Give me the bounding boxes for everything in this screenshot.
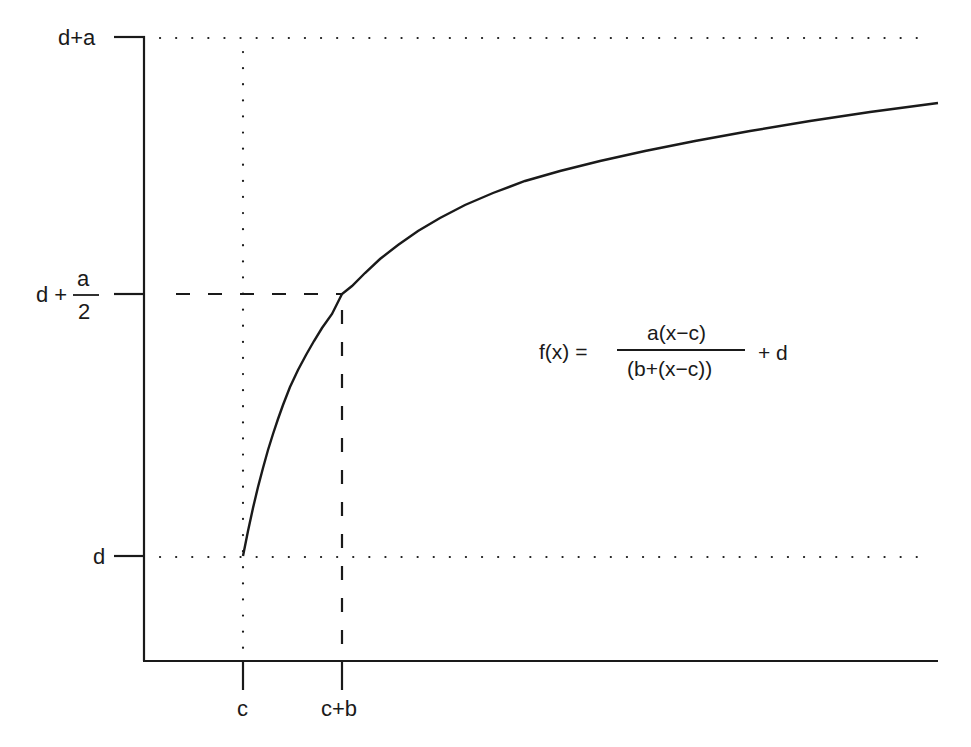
formula-numerator: a(x−c) [647, 321, 706, 344]
formula-lhs: f(x) = [539, 340, 587, 363]
x-label-c: c [237, 696, 248, 721]
x-label-c-plus-b: c+b [321, 696, 357, 721]
y-label-half-max-denominator: 2 [78, 299, 90, 324]
dashed-guides [176, 294, 342, 660]
y-label-half-max-numerator: a [77, 266, 90, 291]
x-tick-labels: c c+b [237, 696, 357, 721]
y-label-half-max-prefix: d + [36, 282, 67, 307]
y-label-d-plus-a: d+a [58, 25, 96, 50]
function-curve [243, 103, 938, 556]
diagram-canvas: d+a d + a 2 d c c+b f(x) = a(x−c) (b+(x−… [0, 0, 971, 747]
y-tick-labels: d+a d + a 2 d [36, 25, 105, 569]
y-label-d: d [93, 544, 105, 569]
formula-denominator: (b+(x−c)) [627, 357, 712, 380]
axes [114, 36, 938, 690]
formula-suffix: + d [758, 341, 788, 364]
formula: f(x) = a(x−c) (b+(x−c)) + d [539, 321, 788, 380]
